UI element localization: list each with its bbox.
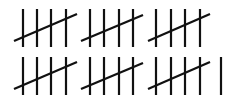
tally-row-1 xyxy=(14,9,210,47)
tally-group-of-five xyxy=(81,9,143,47)
tally-group-of-five xyxy=(14,9,77,47)
tally-group-of-five xyxy=(148,9,210,47)
tally-canvas xyxy=(0,0,238,105)
tally-group-of-five xyxy=(14,57,77,95)
tally-group-of-five xyxy=(148,57,210,95)
tally-group-of-five xyxy=(81,57,143,95)
tally-row-2 xyxy=(14,57,221,95)
